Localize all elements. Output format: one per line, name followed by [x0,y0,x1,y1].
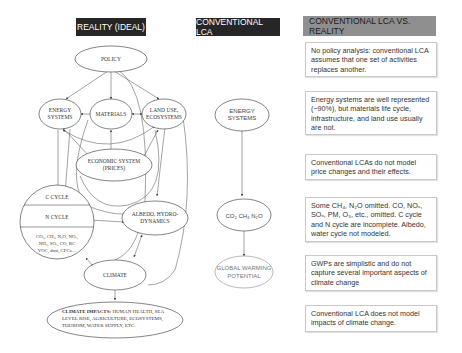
svg-text:SYSTEMS: SYSTEMS [228,115,257,121]
label-policy: POLICY [101,56,121,62]
svg-text:GLOBAL WARMING: GLOBAL WARMING [217,265,272,271]
svg-text:ENERGY: ENERGY [229,108,254,114]
svg-text:ENERGY: ENERGY [49,107,71,113]
svg-text:CO₂ CH₄ N₂O: CO₂ CH₄ N₂O [225,213,262,219]
svg-text:POTENTIAL: POTENTIAL [227,273,261,279]
svg-text:(PRICES): (PRICES) [103,165,125,172]
svg-text:LAND USE,: LAND USE, [150,107,179,113]
comparison-box-energy: Energy systems are well represented (~90… [305,91,437,135]
node-gwp [215,256,273,288]
svg-text:DYNAMICS: DYNAMICS [140,218,169,224]
comparison-box-policy: No policy analysis: conventional LCA ass… [305,42,437,77]
svg-text:ECOSYSTEMS: ECOSYSTEMS [146,114,182,120]
comparison-box-emissions: Some CH₄, N₂O omitted. CO, NOₓ, SOₓ, PM,… [305,197,437,242]
svg-text:C CYCLE: C CYCLE [45,194,69,200]
comparison-box-prices: Conventional LCAs do not model price cha… [305,154,437,180]
svg-text:ECONOMIC SYSTEM: ECONOMIC SYSTEM [88,158,141,164]
svg-text:MATERIALS: MATERIALS [96,111,127,117]
svg-text:CLIMATE: CLIMATE [103,272,127,278]
svg-text:ALBEDO, HYDRO-: ALBEDO, HYDRO- [132,211,179,217]
reality-nodes [20,46,188,338]
svg-text:N CYCLE: N CYCLE [45,214,69,220]
conventional-edges [242,130,244,256]
conventional-nodes [215,99,273,288]
svg-text:SYSTEMS: SYSTEMS [48,114,73,120]
comparison-box-impacts: Conventional LCA does not model impacts … [305,305,437,332]
comparison-box-gwp: GWPs are simplistic and do not capture s… [305,255,437,291]
